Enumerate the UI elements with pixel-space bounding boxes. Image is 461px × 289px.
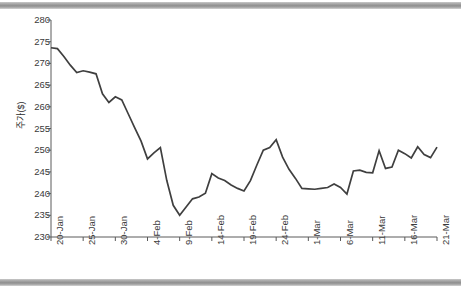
line-chart: 주가($) 230235240245250255260265270275280 … <box>0 10 461 282</box>
screenshot-root: 주가($) 230235240245250255260265270275280 … <box>0 0 461 289</box>
scanner-bar-top <box>0 2 461 9</box>
plot-canvas <box>0 10 461 282</box>
data-series-line <box>51 48 437 216</box>
